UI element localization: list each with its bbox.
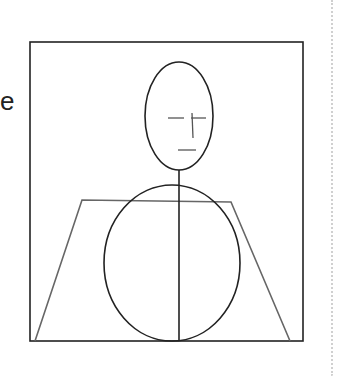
head-ellipse bbox=[145, 62, 213, 170]
trapezoid-shoulders bbox=[35, 200, 290, 341]
body-ellipse bbox=[104, 185, 240, 341]
nose-line bbox=[192, 113, 193, 138]
frame-box bbox=[30, 42, 303, 341]
page-edge-divider bbox=[331, 0, 334, 376]
stick-figure-diagram bbox=[0, 0, 341, 376]
